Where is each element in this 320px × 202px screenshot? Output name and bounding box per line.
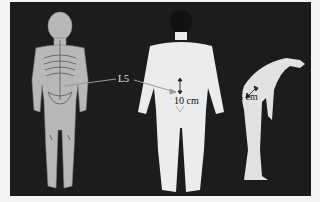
side-flexion-figure	[242, 58, 305, 180]
flexion-measure-label: 5 cm	[238, 91, 258, 102]
figure-illustration	[0, 0, 320, 202]
standing-measure-label: 10 cm	[174, 95, 199, 106]
l5-label: L5	[118, 73, 129, 84]
